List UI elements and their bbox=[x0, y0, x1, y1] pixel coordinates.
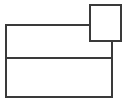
small-square-overlap-mask bbox=[91, 6, 120, 40]
line-drawing-figure bbox=[0, 0, 136, 106]
diagram-canvas bbox=[0, 0, 136, 106]
